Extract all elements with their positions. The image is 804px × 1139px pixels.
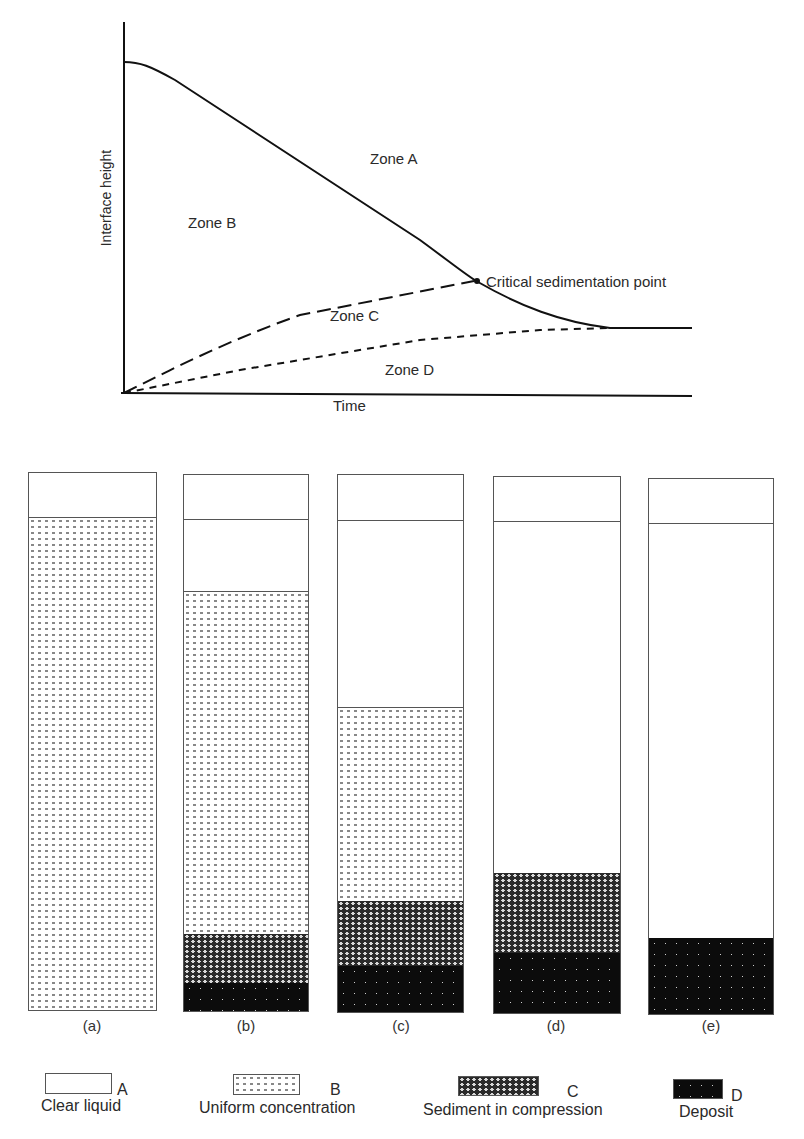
y-axis-label: Interface height — [98, 138, 114, 258]
legend-swatch-a — [45, 1073, 112, 1094]
x-axis-label: Time — [333, 397, 366, 414]
legend-key-c: C — [567, 1083, 579, 1101]
settling-graph — [0, 0, 804, 420]
clear-liquid-top — [649, 479, 773, 523]
uniform-concentration-layer — [29, 517, 156, 1010]
clear-liquid-layer — [649, 523, 773, 938]
clear-liquid-top — [338, 475, 463, 520]
uniform-concentration-layer — [338, 707, 463, 901]
tube-b-caption: (b) — [216, 1017, 276, 1034]
clear-liquid-top — [29, 473, 156, 517]
deposit-layer — [338, 966, 463, 1012]
legend-key-b: B — [330, 1081, 341, 1099]
clear-liquid-layer — [338, 520, 463, 707]
sediment-compression-layer — [494, 873, 620, 953]
legend-swatch-b — [233, 1074, 300, 1095]
tube-b — [183, 474, 309, 1012]
clear-liquid-top — [184, 475, 308, 519]
tube-c-caption: (c) — [371, 1017, 431, 1034]
legend-swatch-d — [673, 1079, 723, 1099]
tube-e — [648, 478, 774, 1015]
boundary-cd-line — [124, 328, 640, 393]
critical-point-label: Critical sedimentation point — [486, 273, 666, 290]
tube-c — [337, 474, 464, 1013]
zone-d-label: Zone D — [385, 361, 434, 378]
zone-a-label: Zone A — [370, 150, 418, 167]
critical-point-marker — [474, 278, 480, 284]
clear-liquid-layer — [184, 519, 308, 591]
deposit-layer — [649, 938, 773, 1014]
tube-a-caption: (a) — [62, 1017, 122, 1034]
tube-e-caption: (e) — [681, 1017, 741, 1034]
deposit-layer — [494, 953, 620, 1013]
clear-liquid-top — [494, 477, 620, 521]
zone-b-label: Zone B — [188, 214, 236, 231]
legend-swatch-c — [458, 1076, 539, 1096]
tube-d-caption: (d) — [526, 1017, 586, 1034]
legend-label-a: Clear liquid — [41, 1097, 121, 1115]
tube-d — [493, 476, 621, 1014]
sediment-compression-layer — [184, 934, 308, 983]
legend-label-c: Sediment in compression — [423, 1101, 603, 1119]
tube-a — [28, 472, 157, 1011]
sediment-compression-layer — [338, 901, 463, 966]
uniform-concentration-layer — [184, 591, 308, 934]
legend-label-b: Uniform concentration — [199, 1099, 356, 1117]
zone-c-label: Zone C — [330, 307, 379, 324]
x-axis — [121, 393, 692, 396]
clear-liquid-layer — [494, 521, 620, 873]
legend-label-d: Deposit — [679, 1103, 733, 1121]
deposit-layer — [184, 983, 308, 1011]
